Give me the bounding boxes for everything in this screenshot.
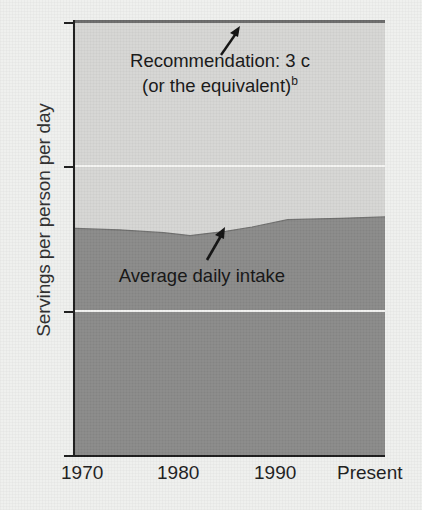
recommendation-top-line bbox=[75, 20, 385, 23]
x-tick-label-1990: 1990 bbox=[254, 462, 296, 484]
y-tick-mark bbox=[64, 311, 73, 313]
y-tick-mark bbox=[64, 455, 73, 457]
gridline-1 bbox=[75, 310, 385, 312]
x-axis-line bbox=[73, 455, 385, 457]
intake-arrow-icon bbox=[202, 225, 234, 261]
x-tick-label-1980: 1980 bbox=[157, 462, 199, 484]
y-tick-mark bbox=[64, 22, 73, 24]
intake-annotation: Average daily intake bbox=[92, 265, 312, 287]
chart-page: Servings per person per day 3 2 1 0 1970… bbox=[0, 0, 422, 510]
recommendation-line-2: (or the equivalent) bbox=[142, 75, 291, 96]
x-tick-label-present: Present bbox=[337, 462, 402, 484]
recommendation-arrow-icon bbox=[215, 26, 249, 56]
y-axis-line bbox=[73, 20, 75, 457]
footnote-marker: b bbox=[291, 74, 298, 88]
y-axis-title: Servings per person per day bbox=[33, 75, 55, 365]
x-tick-label-1970: 1970 bbox=[61, 462, 103, 484]
y-tick-mark bbox=[64, 166, 73, 168]
gridline-2 bbox=[75, 165, 385, 167]
recommendation-line-2-wrap: (or the equivalent)b bbox=[90, 73, 350, 98]
